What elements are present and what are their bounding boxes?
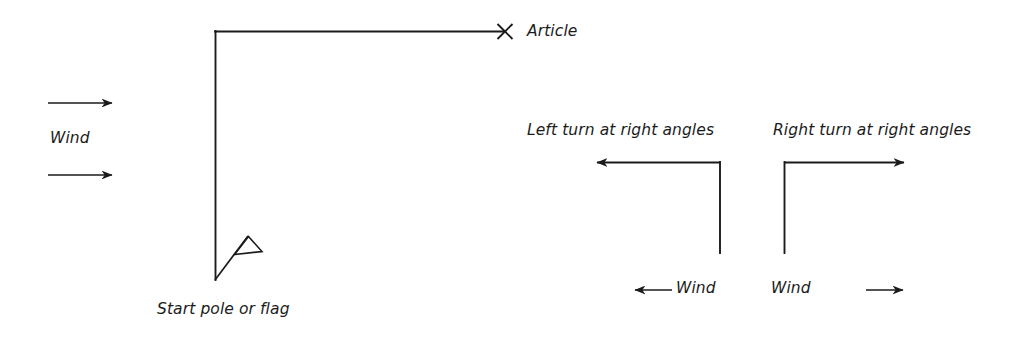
right-turn-group xyxy=(784,162,904,290)
wind-label-left: Wind xyxy=(50,131,90,147)
left-turn-heading: Left turn at right angles xyxy=(527,123,714,139)
diagram-canvas: Article Wind Start pole or flag Left tur… xyxy=(0,0,1025,340)
wind-label-right-turn: Wind xyxy=(771,281,811,297)
start-pole-label: Start pole or flag xyxy=(157,302,290,318)
diagram-graphics xyxy=(0,0,1025,340)
wind-label-left-turn: Wind xyxy=(676,281,716,297)
start-flag-icon xyxy=(215,236,262,280)
right-turn-heading: Right turn at right angles xyxy=(773,123,971,139)
article-label: Article xyxy=(527,24,577,40)
main-course-group xyxy=(48,24,513,280)
left-turn-group xyxy=(597,162,721,290)
